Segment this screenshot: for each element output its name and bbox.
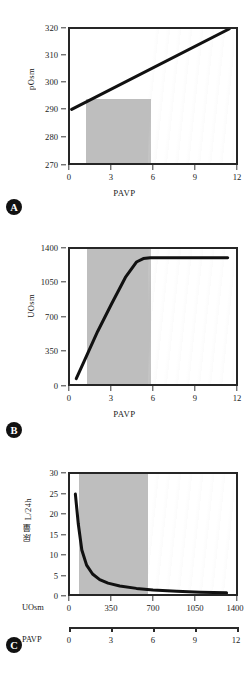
panel-b-x-tick-12: 12 [233, 393, 242, 403]
panel-c-x-axis-label-pavp: PAVP [22, 635, 42, 644]
panel-b: UOsm 0 350 700 1050 1400 0 3 6 9 12 PAVP… [0, 222, 249, 450]
panel-a-x-tick-3: 3 [109, 172, 113, 182]
panel-b-x-tickmark [236, 386, 237, 391]
panel-a-x-tick-6: 6 [151, 172, 155, 182]
panel-c-line-series [70, 474, 236, 594]
panel-a-y-tick-320: 320 [34, 23, 58, 33]
panel-c-x-tickmark [194, 596, 195, 601]
panel-b-line-series [70, 249, 236, 384]
panel-b-y-tickmark [61, 316, 66, 317]
panel-b-y-tick-1400: 1400 [28, 243, 58, 253]
panel-a-x-tick-9: 9 [193, 172, 197, 182]
panel-b-y-tickmark [61, 385, 66, 386]
panel-a-x-tickmark [110, 165, 111, 170]
panel-a-x-tickmark [194, 165, 195, 170]
panel-b-x-tickmark [68, 386, 69, 391]
panel-a-y-tickmark [61, 136, 66, 137]
panel-a-y-tickmark [61, 108, 66, 109]
panel-c-y-tickmark [61, 554, 66, 555]
panel-a-y-tick-300: 300 [34, 77, 58, 87]
panel-c-y-tick-30: 30 [36, 468, 58, 478]
panel-b-x-tickmark [110, 386, 111, 391]
panel-c-y-tick-25: 25 [36, 489, 58, 499]
panel-a-line-series [70, 29, 236, 163]
panel-c-x-tick-uosm-1050: 1050 [186, 603, 203, 613]
panel-c-x-tick-pavp-3: 3 [109, 635, 113, 645]
panel-a-x-tickmark [152, 165, 153, 170]
panel-c-plot-area [68, 472, 238, 596]
panel-a-plot-area [68, 27, 238, 165]
panel-a-plot-frame [68, 27, 238, 165]
panel-b-x-tick-3: 3 [109, 393, 113, 403]
panel-c-x-axis-label-uosm: UOsm [22, 603, 44, 612]
panel-b-letter: B [6, 422, 22, 438]
panel-b-plot-area [68, 247, 238, 386]
panel-c-y-tick-15: 15 [36, 530, 58, 540]
panel-a-letter: A [6, 199, 22, 215]
panel-c-plot-frame [68, 472, 238, 596]
panel-c-y-tick-0: 0 [36, 591, 58, 601]
panel-a-y-tick-290: 290 [34, 104, 58, 114]
panel-a-y-tickmark [61, 81, 66, 82]
panel-b-x-tickmark [152, 386, 153, 391]
panel-a-x-tick-12: 12 [233, 172, 242, 182]
panel-c-x-tick-pavp-12: 12 [232, 635, 241, 645]
panel-c-y-axis-label: 尿量 L/24h [22, 498, 34, 542]
panel-c-y-tickmark [61, 534, 66, 535]
panel-c-secondary-axis-tick [69, 627, 71, 632]
panel-b-plot-frame [68, 247, 238, 386]
panel-c-secondary-axis-tick [111, 627, 113, 632]
panel-c-x-tick-uosm-700: 700 [147, 603, 160, 613]
panel-a-x-axis-label: PAVP [0, 188, 249, 198]
panel-c-x-tickmark [236, 596, 237, 601]
panel-c-x-tick-pavp-9: 9 [193, 635, 197, 645]
panel-a-y-tickmark [61, 164, 66, 165]
panel-c-y-tickmark [61, 513, 66, 514]
panel-a-y-tickmark [61, 54, 66, 55]
panel-c-y-tick-10: 10 [36, 550, 58, 560]
panel-b-x-tickmark [194, 386, 195, 391]
panel-c-y-tickmark [61, 595, 66, 596]
panel-c-x-tick-uosm-0: 0 [67, 603, 71, 613]
panel-a-x-tick-0: 0 [67, 172, 71, 182]
panel-b-y-tickmark [61, 247, 66, 248]
panel-c-y-tick-5: 5 [36, 571, 58, 581]
panel-a: pOsm 270 280 290 300 310 320 0 3 6 9 12 … [0, 0, 249, 222]
panel-a-y-tickmark [61, 27, 66, 28]
panel-b-y-tickmark [61, 350, 66, 351]
panel-c-y-tickmark [61, 493, 66, 494]
panel-b-y-tick-700: 700 [28, 312, 58, 322]
panel-b-y-tick-1050: 1050 [28, 277, 58, 287]
panel-c-y-tick-20: 20 [36, 509, 58, 519]
panel-b-x-tick-6: 6 [151, 393, 155, 403]
panel-c-x-tick-pavp-0: 0 [67, 635, 71, 645]
panel-c-x-tick-uosm-350: 350 [105, 603, 118, 613]
panel-b-x-tick-0: 0 [67, 393, 71, 403]
panel-c-letter: C [6, 637, 22, 653]
panel-c-secondary-axis-tick [237, 627, 239, 632]
panel-c-x-tickmark [68, 596, 69, 601]
panel-a-x-tickmark [68, 165, 69, 170]
panel-c-x-tick-uosm-1400: 1400 [226, 603, 243, 613]
panel-c-x-tick-pavp-6: 6 [151, 635, 155, 645]
panel-c-secondary-axis-tick [195, 627, 197, 632]
panel-a-y-tick-280: 280 [34, 132, 58, 142]
panel-c: 尿量 L/24h 0 5 10 15 20 25 30 UOsm 0 350 7… [0, 450, 249, 678]
panel-b-y-tick-0: 0 [28, 381, 58, 391]
panel-b-x-axis-label: PAVP [0, 409, 249, 419]
panel-b-y-tickmark [61, 281, 66, 282]
panel-c-secondary-axis-tick [153, 627, 155, 632]
panel-a-y-tick-310: 310 [34, 50, 58, 60]
panel-c-y-tickmark [61, 575, 66, 576]
panel-c-y-tickmark [61, 472, 66, 473]
panel-b-y-tick-350: 350 [28, 346, 58, 356]
panel-c-x-tickmark [152, 596, 153, 601]
panel-b-x-tick-9: 9 [193, 393, 197, 403]
panel-c-x-tickmark [110, 596, 111, 601]
panel-a-y-tick-270: 270 [34, 160, 58, 170]
panel-a-x-tickmark [236, 165, 237, 170]
